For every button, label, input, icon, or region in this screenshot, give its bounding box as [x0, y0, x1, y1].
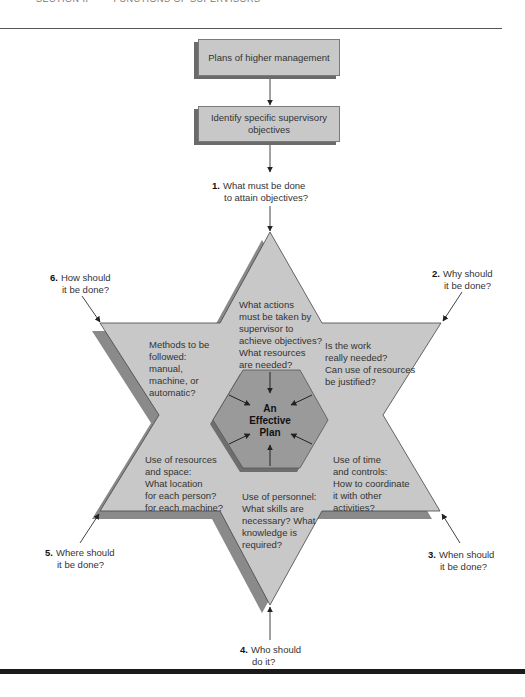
bottom-rule	[0, 669, 525, 674]
question-text: do it?	[240, 656, 301, 668]
question-number: 1.	[212, 180, 220, 191]
question-4: 4.Who should do it?	[240, 644, 301, 668]
star-text-top: What actions must be taken by supervisor…	[239, 299, 322, 371]
star-text-upper-left: Methods to be followed: manual, machine,…	[149, 339, 209, 399]
supervisory-objectives-box: Identify specific supervisory objectives	[198, 106, 340, 142]
question-text: How should	[61, 272, 111, 283]
question-text: Where should	[56, 547, 115, 558]
arrow-q2	[443, 292, 462, 321]
star-text-lower-left: Use of resources and space: What locatio…	[145, 454, 223, 514]
question-number: 3.	[428, 549, 436, 560]
question-number: 5.	[45, 547, 53, 558]
effective-plan-label: An Effective Plan	[230, 403, 310, 439]
box2-label: Identify specific supervisory objectives	[209, 112, 329, 136]
question-3: 3.When should it be done?	[428, 549, 494, 573]
star-text-bottom: Use of personnel: What skills are necess…	[242, 491, 316, 551]
higher-management-plans-box: Plans of higher management	[198, 39, 340, 76]
question-text: When should	[439, 549, 494, 560]
question-number: 4.	[240, 644, 248, 655]
question-text: to attain objectives?	[212, 192, 308, 204]
star-text-lower-right: Use of time and controls: How to coordin…	[333, 454, 410, 514]
question-text: it be done?	[50, 284, 111, 296]
question-text: it be done?	[432, 280, 493, 292]
arrow-q6	[82, 296, 100, 322]
question-6: 6.How should it be done?	[50, 272, 111, 296]
question-2: 2.Why should it be done?	[432, 268, 493, 292]
question-5: 5.Where should it be done?	[45, 547, 115, 571]
question-text: What must be done	[223, 180, 305, 191]
question-text: it be done?	[45, 559, 115, 571]
star-text-upper-right: Is the work really needed? Can use of re…	[325, 340, 415, 388]
arrow-q3	[442, 514, 460, 543]
arrow-q5	[80, 514, 99, 543]
question-1: 1.What must be done to attain objectives…	[212, 180, 308, 204]
question-text: Why should	[443, 268, 493, 279]
box1-label: Plans of higher management	[208, 52, 329, 64]
question-text: it be done?	[428, 561, 494, 573]
question-number: 6.	[50, 272, 58, 283]
question-text: Who should	[251, 644, 301, 655]
question-number: 2.	[432, 268, 440, 279]
